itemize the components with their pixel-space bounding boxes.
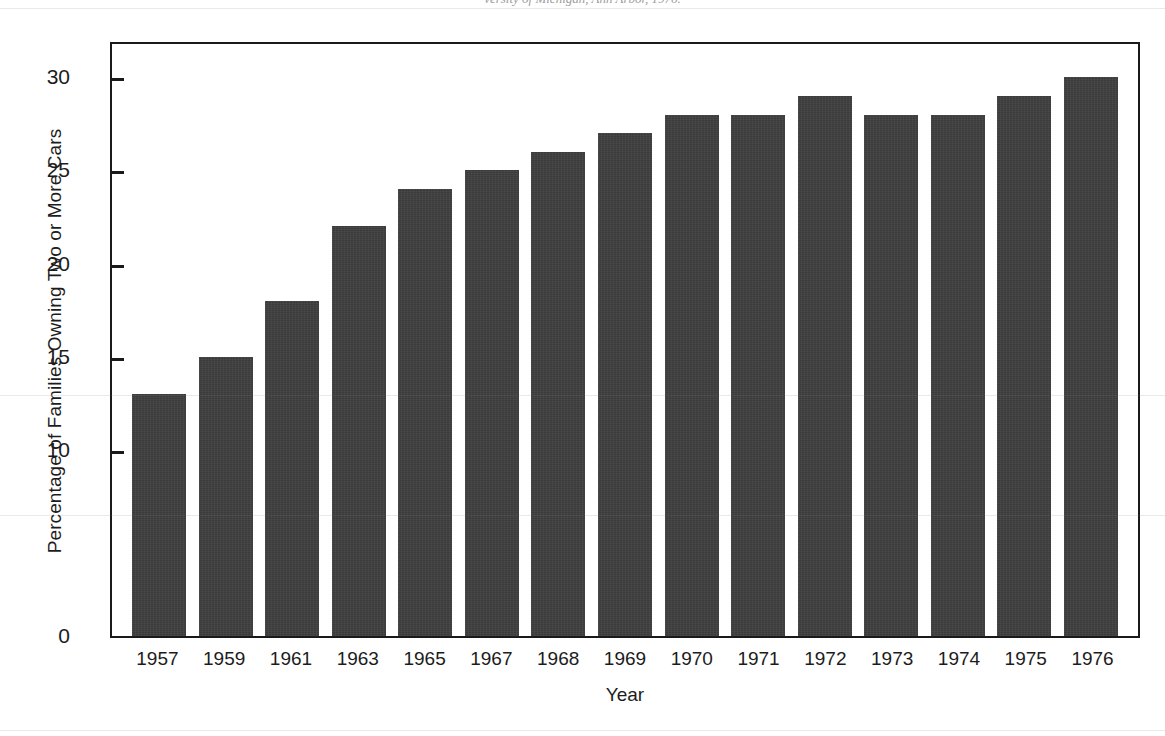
x-axis-tick-label: 1968 (525, 648, 592, 678)
x-axis-tick-label: 1967 (458, 648, 525, 678)
bar[interactable] (931, 115, 985, 637)
x-axis-tick-label: 1957 (124, 648, 191, 678)
bar-slot (592, 44, 659, 636)
bar-slot (858, 44, 925, 636)
bar[interactable] (398, 189, 452, 636)
bar[interactable] (1064, 77, 1118, 636)
bar[interactable] (731, 115, 785, 637)
bar[interactable] (465, 170, 519, 636)
x-axis-tick-label: 1969 (592, 648, 659, 678)
x-axis-tick-label: 1961 (258, 648, 325, 678)
bar[interactable] (864, 115, 918, 637)
bar-slot (991, 44, 1058, 636)
x-axis-tick-label: 1971 (725, 648, 792, 678)
bar[interactable] (531, 152, 585, 636)
bar-slot (193, 44, 260, 636)
y-axis-tick-label: 30 (10, 65, 70, 89)
bar[interactable] (798, 96, 852, 636)
x-axis-title: Year (110, 684, 1140, 706)
y-axis-tick-label: 25 (10, 158, 70, 182)
bar-slot (725, 44, 792, 636)
x-axis-tick-labels: 1957195919611963196519671968196919701971… (110, 648, 1140, 678)
x-axis-tick-label: 1963 (324, 648, 391, 678)
bar-chart-figure: Percentage of Families Owning Two or Mor… (0, 0, 1165, 736)
bar-slot (1057, 44, 1124, 636)
bar[interactable] (199, 357, 253, 636)
y-axis-tick-label: 10 (10, 438, 70, 462)
bar-slot (924, 44, 991, 636)
x-axis-tick-label: 1959 (191, 648, 258, 678)
x-axis-tick-label: 1975 (992, 648, 1059, 678)
bar[interactable] (598, 133, 652, 636)
x-axis-tick-label: 1970 (658, 648, 725, 678)
y-axis-tick-label: 15 (10, 345, 70, 369)
bar[interactable] (132, 394, 186, 636)
bar-slot (259, 44, 326, 636)
bar-slot (326, 44, 393, 636)
y-axis-title: Percentage of Families Owning Two or Mor… (44, 31, 66, 651)
bar-slot (525, 44, 592, 636)
bar[interactable] (665, 115, 719, 637)
y-axis-tick-label: 20 (10, 252, 70, 276)
plot-frame (110, 42, 1140, 638)
x-axis-tick-label: 1974 (926, 648, 993, 678)
bar[interactable] (332, 226, 386, 636)
y-axis-tick (110, 265, 124, 268)
bar-slot (392, 44, 459, 636)
x-axis-tick-label: 1965 (391, 648, 458, 678)
x-axis-tick-label: 1976 (1059, 648, 1126, 678)
y-axis-tick (110, 358, 124, 361)
y-axis-tick (110, 78, 124, 81)
y-axis-tick (110, 171, 124, 174)
bar[interactable] (265, 301, 319, 636)
bar[interactable] (997, 96, 1051, 636)
bar-slot (791, 44, 858, 636)
bar-slot (658, 44, 725, 636)
x-axis-tick-label: 1972 (792, 648, 859, 678)
bar-slot (126, 44, 193, 636)
x-axis-tick-label: 1973 (859, 648, 926, 678)
y-axis-tick-label: 0 (10, 624, 70, 648)
plot-area (112, 44, 1138, 636)
y-axis-tick (110, 451, 124, 454)
bar-slot (459, 44, 526, 636)
